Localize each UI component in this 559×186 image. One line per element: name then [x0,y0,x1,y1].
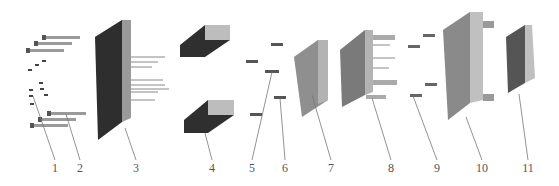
diagram-canvas [0,0,559,186]
callout-2: 2 [77,161,83,176]
part-1-screws [28,60,48,105]
part-9-screws [408,34,437,97]
exploded-assembly-diagram: 1 2 3 4 5 6 7 8 9 10 11 [0,0,559,186]
callout-1: 1 [52,161,58,176]
part-5-6-screws [246,43,286,116]
callout-8: 8 [388,161,394,176]
callout-11: 11 [522,161,534,176]
callout-9: 9 [434,161,440,176]
callout-4: 4 [209,161,215,176]
part-4-blocks [180,25,234,133]
part-8-plate [340,30,397,107]
part-11-plate [506,25,535,93]
part-7-plate [294,40,328,117]
callout-6: 6 [282,161,288,176]
callout-10: 10 [476,161,488,176]
part-2-bolts [26,35,86,128]
part-10-plate [443,12,494,120]
part-3-plate [95,20,169,140]
callout-3: 3 [133,161,139,176]
callout-5: 5 [249,161,255,176]
callout-7: 7 [328,161,334,176]
